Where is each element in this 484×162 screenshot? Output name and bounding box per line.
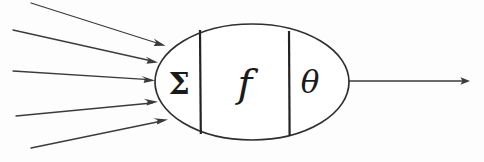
divider-sigma-f: [200, 30, 201, 134]
output-arrow: [349, 77, 470, 85]
input-arrow-3: [13, 71, 155, 83]
input-arrow-1: [31, 3, 166, 46]
input-arrow-5-head: [153, 118, 168, 124]
neuron-diagram-canvas: Σ f θ: [0, 0, 484, 162]
input-arrow-4-shaft: [16, 103, 152, 116]
input-arrow-5: [31, 118, 168, 148]
threshold-symbol: θ: [301, 64, 320, 100]
input-arrow-4-head: [144, 99, 158, 106]
neuron-diagram-svg: Σ f θ: [0, 0, 484, 162]
divider-f-theta: [289, 31, 290, 136]
summation-symbol: Σ: [168, 66, 189, 101]
input-arrow-2: [13, 30, 158, 64]
input-arrow-3-shaft: [13, 71, 149, 80]
input-arrow-5-shaft: [31, 121, 162, 148]
input-arrow-4: [16, 99, 158, 116]
input-arrow-group: [13, 3, 168, 148]
